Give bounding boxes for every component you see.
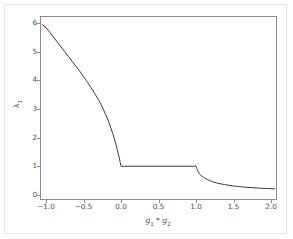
y-tick-label: 1 xyxy=(32,163,37,170)
x-tick-label: 1.5 xyxy=(228,203,239,210)
y-tick-label: 2 xyxy=(32,134,37,141)
x-tick-label: 2.0 xyxy=(265,203,276,210)
y-tick-mark xyxy=(37,52,40,53)
x-tick-label: 0.0 xyxy=(115,203,126,210)
y-tick-mark xyxy=(37,166,40,167)
plot-canvas xyxy=(40,16,277,200)
x-tick-label: 1.0 xyxy=(190,203,201,210)
y-tick-label: 4 xyxy=(32,77,37,84)
y-axis-label-lambda: λ xyxy=(12,104,21,109)
y-axis-label: λ1 xyxy=(12,100,23,108)
chart-screenshot: −1.0−0.50.00.51.01.52.0 0123456 g1 * g2 … xyxy=(0,0,293,239)
x-axis-label-separator: * xyxy=(154,216,163,225)
y-tick-mark xyxy=(37,138,40,139)
y-tick-label: 5 xyxy=(32,48,37,55)
x-tick-label: 0.5 xyxy=(153,203,164,210)
x-axis-label-sub2: 2 xyxy=(167,221,170,227)
y-tick-mark xyxy=(37,80,40,81)
y-tick-label: 0 xyxy=(32,191,37,198)
x-tick-label: −0.5 xyxy=(75,203,92,210)
x-tick-label: −1.0 xyxy=(37,203,54,210)
y-tick-label: 3 xyxy=(32,105,37,112)
lambda1-curve xyxy=(42,25,275,189)
y-tick-mark xyxy=(37,109,40,110)
y-tick-mark xyxy=(37,23,40,24)
x-axis-label: g1 * g2 xyxy=(145,216,170,227)
y-axis-label-sub: 1 xyxy=(17,100,23,103)
y-tick-label: 6 xyxy=(32,20,37,27)
y-tick-mark xyxy=(37,195,40,196)
